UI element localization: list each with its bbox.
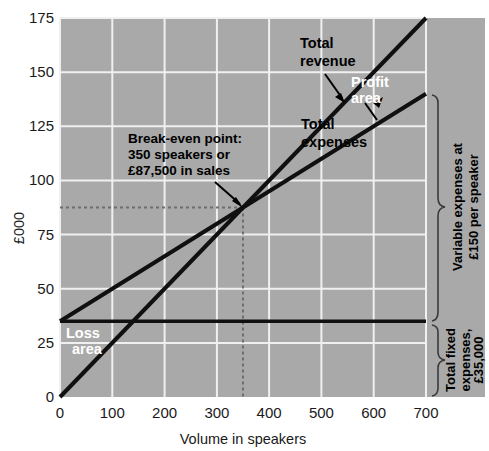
fixed-expenses-bracket-line-1: Total fixed	[443, 328, 458, 392]
y-tick-75: 75	[37, 226, 54, 243]
total-revenue-label-line-2: revenue	[300, 53, 356, 69]
fixed-expenses-bracket-line-3: £35,000	[471, 337, 486, 384]
breakeven-callout-line-3: £87,500 in sales	[128, 163, 230, 178]
breakeven-callout-line-1: Break-even point:	[128, 131, 242, 146]
x-tick-200: 200	[152, 404, 177, 421]
y-tick-150: 150	[29, 63, 54, 80]
profit-area-label-line-1: Profit	[351, 74, 389, 90]
y-axis-title: £000	[11, 212, 27, 244]
x-tick-700: 700	[413, 404, 438, 421]
y-tick-0: 0	[46, 388, 54, 405]
x-axis-title: Volume in speakers	[180, 431, 307, 447]
y-tick-175: 175	[29, 9, 54, 26]
x-tick-500: 500	[309, 404, 334, 421]
loss-area-label-line-2: area	[72, 341, 103, 357]
x-tick-100: 100	[100, 404, 125, 421]
breakeven-callout-line-2: 350 speakers or	[128, 147, 231, 162]
fixed-expenses-bracket-label: Total fixed expenses, £35,000	[443, 328, 486, 392]
y-tick-125: 125	[29, 117, 54, 134]
chart-canvas: 175 150 125 100 75 50 25 0 0 100 200 300…	[0, 0, 489, 451]
profit-area-label-line-2: area	[351, 90, 382, 106]
variable-expenses-bracket-label: Variable expenses at £150 per speaker	[450, 142, 481, 271]
total-expenses-label-line-1: Total	[301, 116, 335, 132]
variable-expenses-bracket-line-2: £150 per speaker	[466, 154, 481, 260]
total-expenses-label-line-2: expenses	[301, 134, 367, 150]
y-tick-25: 25	[37, 334, 54, 351]
variable-expenses-bracket-line-1: Variable expenses at	[450, 142, 465, 271]
x-tick-300: 300	[204, 404, 229, 421]
x-tick-0: 0	[56, 404, 64, 421]
loss-area-annotation: Loss area	[66, 325, 103, 357]
x-tick-400: 400	[257, 404, 282, 421]
break-even-chart: 175 150 125 100 75 50 25 0 0 100 200 300…	[0, 0, 489, 451]
y-tick-100: 100	[29, 171, 54, 188]
loss-area-label-line-1: Loss	[66, 325, 100, 341]
y-tick-50: 50	[37, 280, 54, 297]
total-revenue-label-line-1: Total	[300, 35, 334, 51]
x-tick-600: 600	[361, 404, 386, 421]
